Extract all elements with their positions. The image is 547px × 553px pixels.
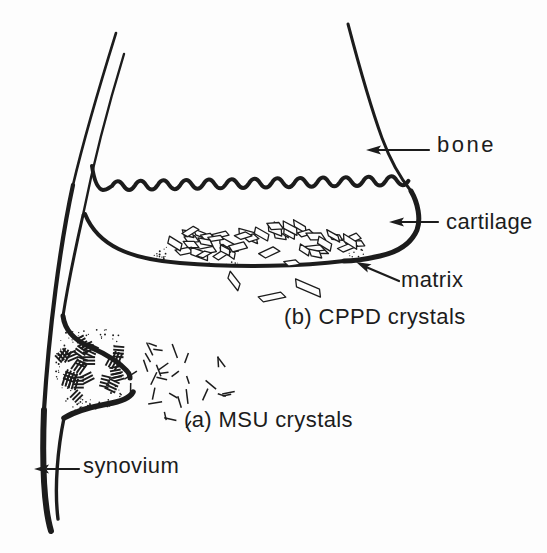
- label-synovium: synovium: [83, 453, 179, 478]
- figure-canvas: bone cartilage matrix (b) CPPD crystals …: [0, 0, 547, 553]
- joint-crystal-diagram: bone cartilage matrix (b) CPPD crystals …: [0, 0, 547, 553]
- bone-cartilage-wavy-line: [92, 166, 408, 190]
- tophus-stipple: [55, 329, 122, 411]
- label-msu-crystals: (a) MSU crystals: [184, 407, 353, 432]
- cartilage-arrow: [389, 218, 438, 227]
- bone-outline-right: [348, 24, 411, 191]
- label-cartilage: cartilage: [446, 209, 533, 234]
- bone-arrow: [366, 146, 429, 155]
- cartilage-right-edge: [344, 191, 419, 261]
- label-matrix: matrix: [401, 267, 463, 292]
- matrix-arrow: [356, 262, 399, 281]
- cppd-crystal-band: [166, 220, 365, 262]
- label-bone: bone: [437, 132, 496, 157]
- label-cppd-crystals: (b) CPPD crystals: [284, 304, 466, 329]
